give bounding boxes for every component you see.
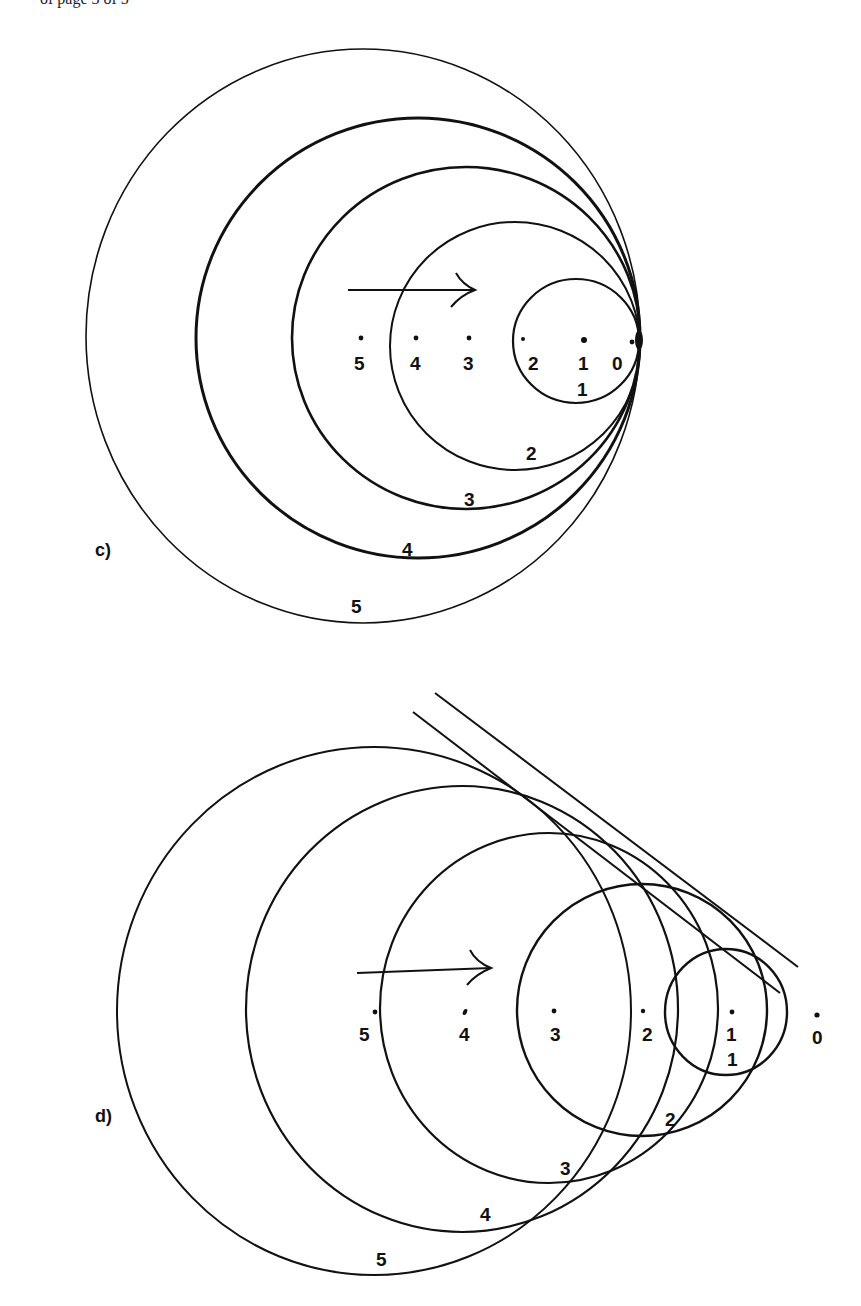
source-dot-d-1: [730, 1010, 735, 1015]
circle-label-c-3: 3: [464, 489, 475, 510]
wavefront-circle-c-5: [86, 49, 640, 623]
point-label-c-5: 5: [354, 353, 365, 374]
panel-c: c) 5 4 3 2 1 0 1: [86, 49, 643, 623]
source-dot-d-4: [462, 1008, 468, 1015]
point-label-d-1: 1: [726, 1024, 737, 1045]
source-points-d: 5 4 3 2 1 0: [359, 1008, 823, 1048]
tangent-point-c: [635, 330, 643, 350]
circle-label-c-1: 1: [577, 379, 588, 400]
source-dot-d-2: [641, 1009, 645, 1013]
wavefront-circle-d-4: [246, 786, 678, 1232]
circle-label-c-2: 2: [526, 443, 537, 464]
wavefront-circles-c: [86, 49, 640, 623]
wavefront-circle-d-1: [665, 949, 787, 1075]
circle-labels-d: 1 2 3 4 5: [376, 1049, 738, 1270]
point-label-d-5: 5: [359, 1024, 370, 1045]
wavefront-figure: of page 3 of 5 c) 5 4 3 2 1: [0, 0, 861, 1306]
clipped-header-text: of page 3 of 5: [40, 0, 129, 8]
circle-labels-c: 1 2 3 4 5: [351, 379, 588, 617]
point-label-d-4: 4: [459, 1024, 470, 1045]
point-label-c-3: 3: [463, 353, 474, 374]
source-dot-c-4: [414, 336, 419, 341]
circle-label-d-5: 5: [376, 1249, 387, 1270]
source-dot-c-1: [581, 337, 587, 343]
wavefront-circles-d: [117, 747, 787, 1275]
point-label-c-2: 2: [528, 353, 539, 374]
point-label-c-1: 1: [578, 353, 589, 374]
circle-label-c-4: 4: [402, 539, 413, 560]
source-dot-d-0: [814, 1012, 819, 1017]
circle-label-d-4: 4: [480, 1204, 491, 1225]
wavefront-circle-c-1: [513, 279, 639, 403]
source-dot-c-0: [630, 340, 635, 345]
tangent-line-inner: [413, 712, 780, 993]
wavefront-circle-c-2: [390, 222, 640, 470]
motion-arrow-d: [357, 950, 491, 985]
point-label-c-4: 4: [410, 353, 421, 374]
source-points-c: 5 4 3 2 1 0: [354, 330, 643, 374]
circle-label-c-5: 5: [351, 596, 362, 617]
header-fragment: of page 3 of 5: [40, 0, 129, 8]
source-dot-c-5: [359, 336, 364, 341]
wavefront-circle-c-3: [292, 167, 640, 509]
source-dot-c-2: [521, 337, 525, 341]
panel-label-c: c): [95, 540, 111, 560]
panel-d: d) 5 4 3 2 1 0: [95, 693, 823, 1275]
circle-label-d-1: 1: [727, 1049, 738, 1070]
panel-label-d: d): [95, 1106, 112, 1126]
source-dot-c-3: [467, 336, 472, 341]
circle-label-d-2: 2: [665, 1109, 676, 1130]
point-label-d-2: 2: [642, 1024, 653, 1045]
point-label-d-0: 0: [812, 1027, 823, 1048]
circle-label-d-3: 3: [560, 1158, 571, 1179]
point-label-d-3: 3: [550, 1024, 561, 1045]
source-dot-d-5: [373, 1010, 378, 1015]
point-label-c-0: 0: [612, 353, 623, 374]
source-dot-d-3: [552, 1009, 557, 1014]
